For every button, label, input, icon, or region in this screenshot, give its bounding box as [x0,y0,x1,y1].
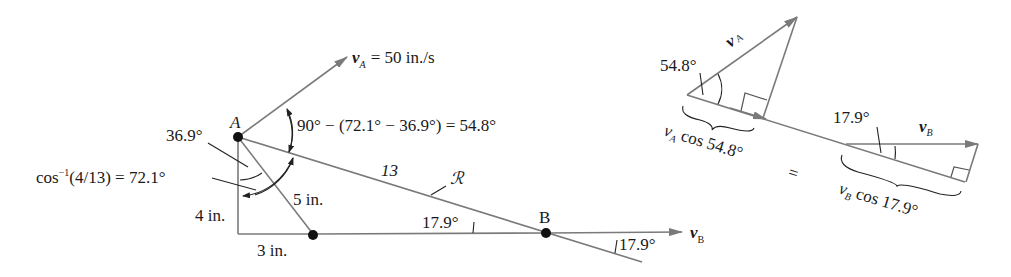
velocity-diagram: A B vA= 50 in./s 90° − (72.1° − 36.9°) =… [0,0,1011,277]
va-component-brace [683,106,754,131]
angle-36-leader [208,143,248,167]
angle-b-outer-tick [615,240,617,253]
side-3in-label: 3 in. [257,241,287,260]
right-va-arrow [687,17,797,95]
side-5in-line [238,137,313,234]
right-angle-17-label: 17.9° [833,108,870,127]
angle-b-inner-tick [473,222,474,233]
vb-arrow [546,232,682,233]
angle-b-outer-label: 17.9° [619,235,656,254]
angle-72-leader [212,178,256,190]
angle-36-arc [240,173,262,180]
left-mechanism-diagram: A B vA= 50 in./s 90° − (72.1° − 36.9°) =… [36,48,705,262]
link-length-label: 13 [381,161,398,180]
va-perpendicular [763,17,797,118]
point-b-dot [541,228,551,238]
right-projection-diagram: vA 54.8° vA cos 54.8° = 17.9° vB vB cos … [660,17,978,223]
va-label: vA= 50 in./s [352,48,435,70]
va-component-label: vA cos 54.8° [661,121,745,165]
angle-54-expression: 90° − (72.1° − 36.9°) = 54.8° [297,116,496,135]
right-va-label: vA [722,26,747,51]
angle-72-arc-up [255,158,293,195]
angle-b-inner-label: 17.9° [422,213,459,232]
va-right-angle-mark [741,93,767,111]
vb-label: vB [690,223,705,245]
angle-72-label: cos−1(4/13) = 72.1° [36,167,166,187]
point-b-label: B [539,208,550,227]
right-vb-label: vB [919,117,933,138]
point-a-dot [233,132,243,142]
right-angle-17-leader [877,127,881,153]
point-a-label: A [229,113,241,132]
vb-perpendicular [966,144,978,182]
side-5in-label: 5 in. [293,190,323,209]
right-angle-54-arc [718,74,722,104]
right-angle-54-label: 54.8° [660,56,697,75]
va-projection-arrow [730,108,766,119]
equals-sign: = [786,162,801,183]
base-line [313,233,546,234]
angle-36-label: 36.9° [166,126,203,145]
side-4in-label: 4 in. [195,206,225,225]
link-r-leader [431,186,446,195]
vb-right-angle-mark [951,167,969,177]
link-r-label: ℛ [450,169,465,188]
pivot-dot [308,230,318,240]
